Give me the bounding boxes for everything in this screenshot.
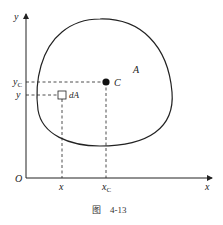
region-label: A: [132, 64, 140, 75]
x-axis-label: x: [204, 181, 210, 192]
centroid-point: [102, 78, 109, 85]
origin-label: O: [15, 173, 22, 184]
centroid-label: C: [114, 77, 121, 88]
area-element: [58, 91, 66, 99]
yc-tick-label: yC: [12, 76, 22, 89]
centroid-diagram: y x O A C dA yC y x xC 图 4-13: [0, 0, 223, 225]
element-label: dA: [69, 90, 80, 100]
xc-tick-label: xC: [101, 181, 111, 194]
x-tick-label: x: [58, 181, 64, 192]
y-tick-label: y: [15, 89, 21, 100]
figure-caption: 图 4-13: [92, 205, 127, 215]
y-axis-label: y: [13, 11, 19, 22]
